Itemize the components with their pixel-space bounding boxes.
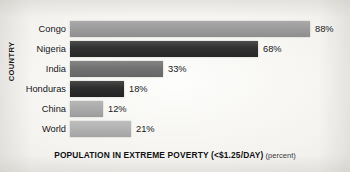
- bar-sheen: [70, 81, 124, 97]
- category-label-world: World: [14, 124, 66, 134]
- bar-sheen: [70, 101, 103, 117]
- category-label-china: China: [14, 104, 66, 114]
- bar-row: India33%: [0, 61, 350, 77]
- category-label-congo: Congo: [14, 24, 66, 34]
- x-axis-title-main: POPULATION IN EXTREME POVERTY (<$1.25/DA…: [54, 150, 263, 160]
- value-label-world: 21%: [136, 124, 155, 134]
- value-label-honduras: 18%: [129, 84, 148, 94]
- value-label-nigeria: 68%: [263, 44, 282, 54]
- poverty-bar-chart: COUNTRY Congo88%Nigeria68%India33%Hondur…: [0, 0, 350, 172]
- bar-row: World21%: [0, 121, 350, 137]
- bar-sheen: [70, 21, 310, 37]
- bar-row: Nigeria68%: [0, 41, 350, 57]
- plot-area: Congo88%Nigeria68%India33%Honduras18%Chi…: [0, 21, 350, 141]
- bar-congo: [70, 21, 310, 37]
- value-label-china: 12%: [108, 104, 127, 114]
- value-label-congo: 88%: [315, 24, 334, 34]
- category-label-nigeria: Nigeria: [14, 44, 66, 54]
- bar-row: Honduras18%: [0, 81, 350, 97]
- bar-india: [70, 61, 163, 77]
- bar-sheen: [70, 41, 258, 57]
- bar-row: Congo88%: [0, 21, 350, 37]
- category-label-honduras: Honduras: [14, 84, 66, 94]
- bar-row: China12%: [0, 101, 350, 117]
- bar-sheen: [70, 121, 131, 137]
- bar-world: [70, 121, 131, 137]
- category-label-india: India: [14, 64, 66, 74]
- value-label-india: 33%: [168, 64, 187, 74]
- x-axis-title: POPULATION IN EXTREME POVERTY (<$1.25/DA…: [0, 144, 350, 162]
- bar-nigeria: [70, 41, 258, 57]
- x-axis-title-unit: (percent): [265, 151, 295, 160]
- bar-china: [70, 101, 103, 117]
- bar-honduras: [70, 81, 124, 97]
- bar-sheen: [70, 61, 163, 77]
